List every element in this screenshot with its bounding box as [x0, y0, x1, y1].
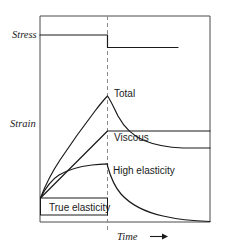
- strain-axis-label: Strain: [10, 118, 36, 129]
- total-strain-curve: [41, 96, 211, 198]
- stress-step-curve: [40, 35, 178, 48]
- total-curve-label: Total: [114, 88, 135, 99]
- true-elasticity-curve-label: True elasticity: [49, 202, 110, 213]
- high-elasticity-curve-label: High elasticity: [113, 165, 175, 176]
- time-axis-label: Time: [117, 231, 138, 242]
- stress-axis-label: Stress: [12, 29, 37, 40]
- diagram-canvas: Stress Strain Time Total Viscous High el…: [0, 0, 242, 246]
- viscoelastic-strain-diagram: Stress Strain Time Total Viscous High el…: [0, 0, 242, 246]
- time-arrow-head: [162, 234, 168, 240]
- viscous-curve-label: Viscous: [114, 132, 149, 143]
